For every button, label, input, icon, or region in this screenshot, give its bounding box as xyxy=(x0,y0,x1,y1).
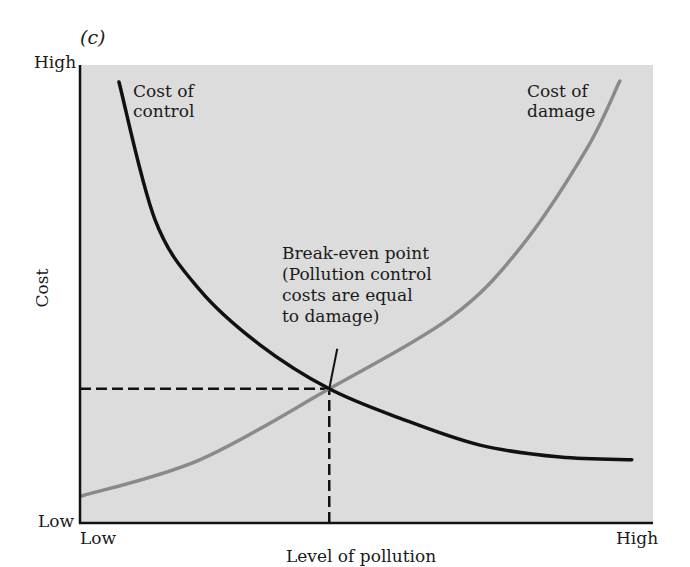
damage-curve-label-line2: damage xyxy=(527,101,595,121)
damage-curve-label-line1: Cost of xyxy=(527,81,588,101)
y-axis-label: Cost xyxy=(32,268,52,308)
break-even-annotation-line1: Break-even point xyxy=(282,243,429,263)
x-tick-high: High xyxy=(616,528,658,548)
x-axis-label: Level of pollution xyxy=(286,546,436,566)
x-tick-low: Low xyxy=(80,528,116,548)
control-curve-label-line2: control xyxy=(133,101,194,121)
y-tick-high: High xyxy=(34,52,76,72)
break-even-annotation-line2: (Pollution control xyxy=(282,264,432,284)
y-tick-low: Low xyxy=(38,511,74,531)
control-curve-label-line1: Cost of xyxy=(133,81,194,101)
break-even-annotation-line4: to damage) xyxy=(282,306,379,326)
break-even-annotation-line3: costs are equal xyxy=(282,285,413,305)
